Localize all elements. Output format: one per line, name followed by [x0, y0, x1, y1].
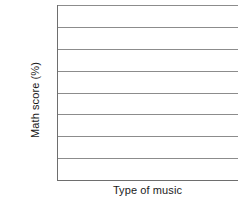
gridline — [57, 71, 238, 72]
gridline — [57, 136, 238, 137]
gridline — [57, 93, 238, 94]
gridline — [57, 114, 238, 115]
plot-area — [57, 5, 238, 180]
gridline-layer — [57, 5, 238, 180]
y-axis-line — [57, 5, 58, 181]
x-axis-title: Type of music — [57, 185, 238, 196]
plot-top-border — [57, 5, 238, 6]
chart-figure: Math score (%) Type of music — [0, 0, 245, 200]
x-axis-line — [57, 180, 238, 181]
gridline — [57, 27, 238, 28]
gridline — [57, 49, 238, 50]
y-axis-title: Math score (%) — [26, 0, 44, 200]
gridline — [57, 158, 238, 159]
